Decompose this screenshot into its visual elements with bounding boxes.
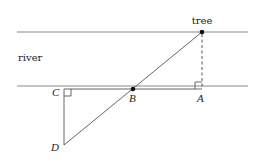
label-tree: tree — [192, 15, 213, 26]
label-B: B — [129, 92, 136, 104]
point-tree — [200, 30, 205, 35]
label-D: D — [50, 141, 59, 153]
label-river: river — [18, 52, 43, 63]
label-A: A — [196, 92, 204, 104]
river-diagram: tree river C B A D — [0, 0, 259, 163]
label-C: C — [52, 86, 60, 98]
right-angle-marker-C — [64, 89, 71, 96]
point-B — [131, 87, 136, 92]
